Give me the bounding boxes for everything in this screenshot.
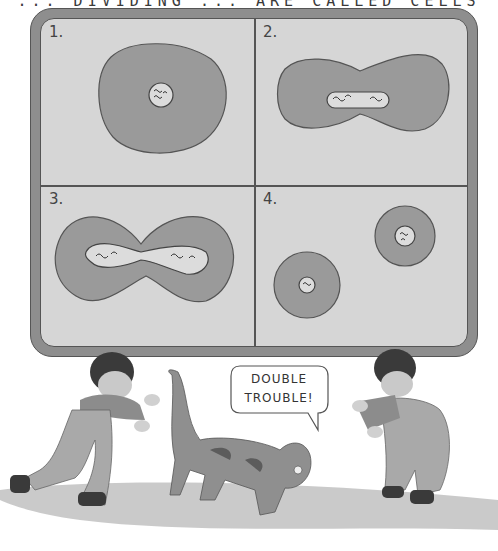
speech-line-2: TROUBLE!	[238, 389, 320, 408]
illustration-scene	[0, 0, 498, 551]
speech-bubble-text: DOUBLE TROUBLE!	[238, 370, 320, 408]
child-right-figure	[352, 349, 449, 504]
speech-line-1: DOUBLE	[238, 370, 320, 389]
